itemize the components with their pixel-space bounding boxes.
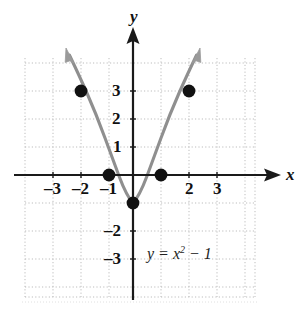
y-tick-label-2: 2 (112, 110, 121, 127)
point-1-0 (155, 169, 168, 182)
figure-background (0, 0, 302, 319)
point-2-3 (183, 85, 196, 98)
y-tick-label-neg2: –2 (104, 222, 121, 239)
equation-minus: − (189, 245, 200, 262)
x-tick-label-neg3: –3 (44, 180, 61, 197)
point-neg2-3 (75, 85, 88, 98)
equation-constant: 1 (204, 245, 212, 262)
parabola-graph-svg (0, 0, 302, 319)
x-tick-label-2: 2 (185, 180, 194, 197)
x-tick-label-3: 3 (213, 180, 222, 197)
point-0-neg1 (127, 197, 140, 210)
y-tick-label-3: 3 (112, 82, 121, 99)
y-tick-label-1: 1 (113, 138, 122, 155)
x-tick-label-neg2: –2 (72, 180, 89, 197)
graph-figure: 3 2 1 –2 –3 –3 –2 –1 2 3 y x y = x2 − 1 (0, 0, 302, 319)
y-axis-label: y (130, 8, 138, 25)
x-axis-label: x (286, 166, 295, 183)
equation-lhs: y (147, 245, 154, 262)
equation-exponent: 2 (180, 244, 185, 255)
x-tick-label-neg1: –1 (100, 180, 117, 197)
equation-equals: = (158, 245, 169, 262)
equation-annotation: y = x2 − 1 (147, 244, 212, 263)
y-tick-label-neg3: –3 (104, 250, 121, 267)
equation-base: x (173, 245, 180, 262)
